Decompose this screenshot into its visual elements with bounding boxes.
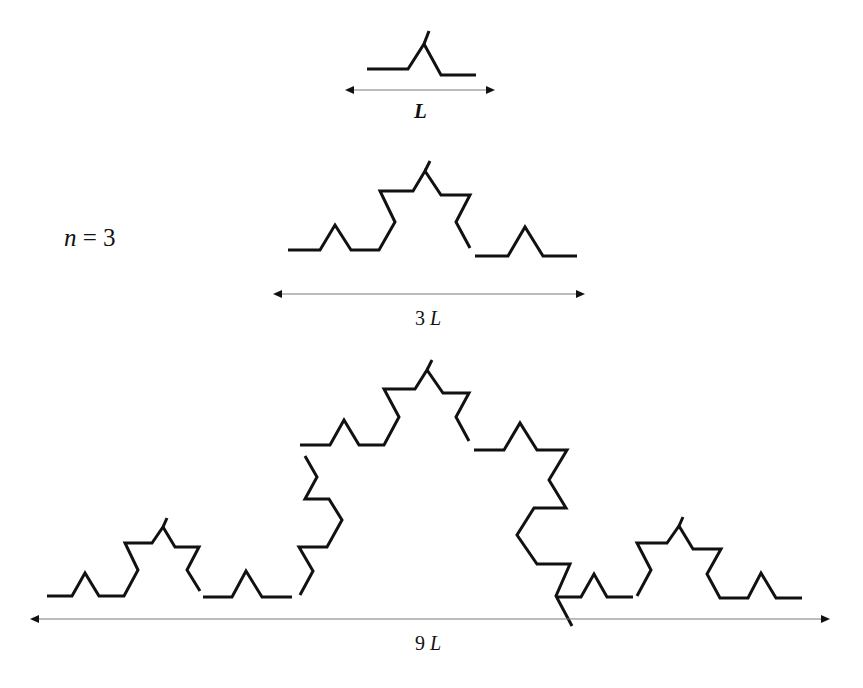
koch-curve-svg [0,0,863,688]
curve-segment [427,360,432,370]
arrowhead-left-icon [345,86,354,94]
koch-level-2-curve [273,161,585,298]
scale-unit: L [414,99,427,123]
iteration-label: n = 3 [64,224,116,252]
scale-unit: L [430,632,441,654]
curve-segment [424,31,429,44]
arrowhead-left-icon [30,615,39,623]
koch-curve-diagram: L 3 L 9 L n = 3 [0,0,863,688]
curve-segment [679,517,683,526]
curve-segment [203,571,292,597]
curve-segment [475,227,577,256]
koch-level-1-curve [345,31,495,94]
scale-label-3L: 3 L [415,307,441,330]
curve-segment [163,518,167,527]
scale-multiplier: 3 [415,307,430,329]
curve-segment [299,456,342,595]
curve-segment [288,171,470,250]
iteration-value: = 3 [77,224,116,251]
arrowhead-right-icon [486,86,495,94]
curve-segment [425,161,430,171]
arrowhead-right-icon [576,290,585,298]
iteration-variable: n [64,224,77,251]
curve-segment [47,527,200,596]
scale-label-L: L [414,99,427,124]
scale-unit: L [430,307,441,329]
scale-multiplier: 9 [415,632,430,654]
curve-segment [367,44,476,75]
curve-segment [300,370,469,445]
koch-level-3-curve [30,360,830,626]
arrowhead-right-icon [821,615,830,623]
scale-label-9L: 9 L [415,632,441,655]
arrowhead-left-icon [273,290,282,298]
curve-segment [556,574,633,597]
curve-segment [637,526,802,598]
